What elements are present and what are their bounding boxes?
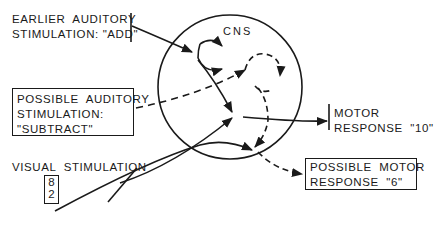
- possible-motor-box: POSSIBLE MOTOR RESPONSE "6": [305, 158, 417, 190]
- possible-motor-arrow: [258, 152, 302, 174]
- possible-auditory-box: POSSIBLE AUDITORY STIMULATION: "SUBTRACT…: [12, 88, 134, 136]
- possible-auditory-arrow: [136, 70, 245, 108]
- solid-loop: [200, 40, 222, 46]
- dashed-loop: [245, 54, 280, 76]
- cns-label: CNS: [223, 24, 252, 38]
- earlier-auditory-arrow: [132, 26, 192, 52]
- solid-path-center: [198, 60, 232, 112]
- visual-stimulation-label: VISUAL STIMULATION: [12, 160, 147, 174]
- motor-response-arrow: [243, 117, 327, 121]
- visual-arrow-2: [55, 142, 252, 211]
- visual-display-box: 8 2: [44, 175, 59, 204]
